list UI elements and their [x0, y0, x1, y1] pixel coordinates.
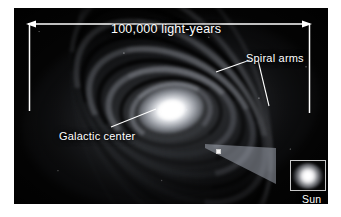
sun-label: Sun [302, 193, 321, 204]
galactic-center-leader [111, 109, 156, 127]
galactic-center-label: Galactic center [59, 130, 135, 142]
spiral-arms-label: Spiral arms [246, 52, 304, 64]
scale-bar-label: 100,000 light-years [111, 22, 221, 36]
annotation-leader-lines [14, 8, 328, 204]
sun-position-marker [216, 149, 221, 154]
sun-glow [293, 163, 323, 189]
sun-inset-box [290, 160, 326, 191]
spiral-arms-leaders [216, 60, 269, 106]
galaxy-figure: 100,000 light-years Spiral arms Galactic… [0, 0, 341, 217]
galaxy-image-plate: 100,000 light-years Spiral arms Galactic… [14, 8, 328, 204]
